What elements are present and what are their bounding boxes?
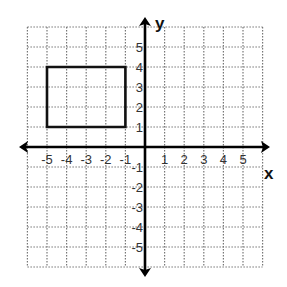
- y-tick-label: -5: [131, 240, 143, 255]
- x-tick-label: 2: [181, 152, 188, 167]
- x-tick-label: -3: [80, 152, 92, 167]
- axes: [19, 17, 270, 277]
- y-tick-label: 5: [136, 40, 143, 55]
- y-tick-label: -1: [131, 160, 143, 175]
- y-tick-label: 4: [136, 60, 143, 75]
- x-tick-label: -4: [61, 152, 73, 167]
- x-tick-label: 1: [161, 152, 168, 167]
- coordinate-plane: -5-4-3-2-11234554321-1-2-3-4-5 x y: [0, 0, 287, 287]
- y-axis-label: y: [155, 14, 165, 33]
- x-tick-label: -2: [100, 152, 112, 167]
- x-tick-label: -5: [41, 152, 53, 167]
- y-tick-label: 3: [136, 80, 143, 95]
- y-tick-label: -3: [131, 200, 143, 215]
- x-axis-label: x: [264, 164, 274, 183]
- y-tick-label: 2: [136, 100, 143, 115]
- x-tick-label: -1: [120, 152, 132, 167]
- y-tick-label: -4: [131, 220, 143, 235]
- x-tick-label: 4: [220, 152, 227, 167]
- x-tick-label: 3: [200, 152, 207, 167]
- y-tick-label: 1: [136, 120, 143, 135]
- x-tick-label: 5: [239, 152, 246, 167]
- y-tick-label: -2: [131, 180, 143, 195]
